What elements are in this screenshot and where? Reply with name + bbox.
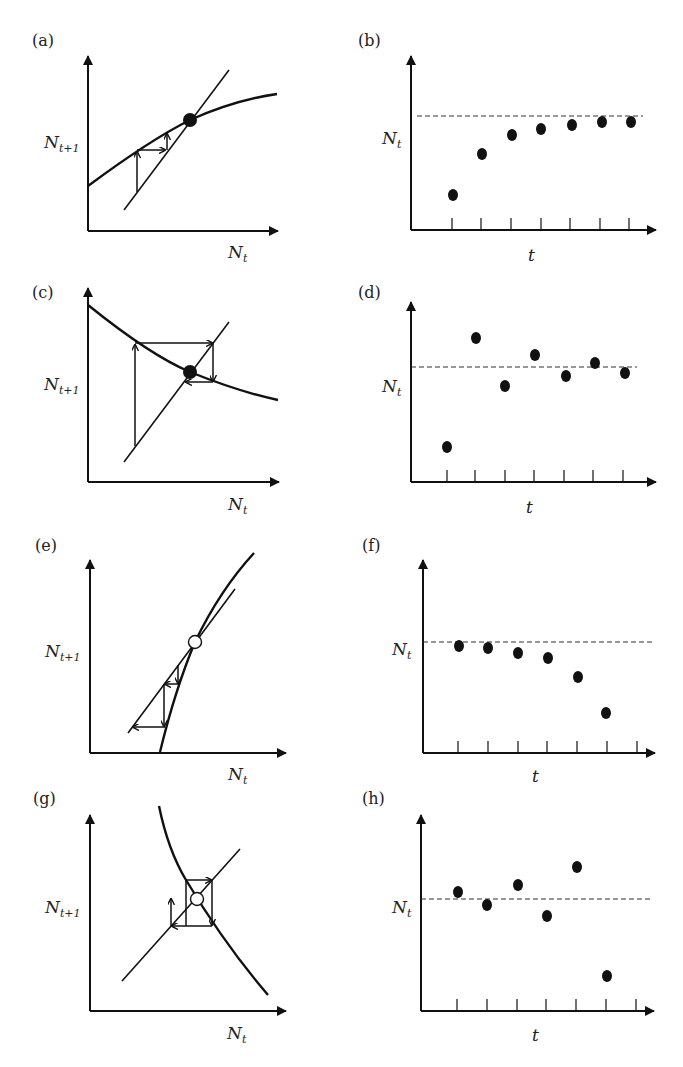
y-axis-label: Nt [391, 897, 412, 920]
x-ticks [458, 741, 637, 753]
data-points [454, 640, 611, 719]
panel-label: (f) [362, 536, 380, 555]
panel-g: (g) Nt+1 Nt [33, 789, 286, 1046]
data-points [448, 116, 636, 201]
x-axis-label: Nt [227, 242, 248, 265]
panel-f: (f) Nt t [362, 536, 655, 786]
panel-label: (g) [33, 789, 56, 808]
panel-h: (h) Nt t [362, 789, 654, 1045]
panel-label: (a) [32, 31, 54, 50]
y-axis-label: Nt [381, 376, 402, 399]
recruitment-curve [159, 806, 268, 995]
y-axis-label: Nt+1 [44, 641, 81, 664]
panel-b: (b) Nt t [358, 31, 656, 265]
panel-label: (d) [358, 283, 381, 302]
x-axis-label: Nt [226, 1023, 247, 1046]
recruitment-curve [160, 553, 254, 752]
x-axis-label: t [532, 766, 539, 786]
x-axis-label: Nt [227, 764, 248, 787]
y-axis-label: Nt [391, 639, 412, 662]
y-axis-label: Nt+1 [43, 374, 80, 397]
panel-label: (h) [362, 789, 385, 808]
x-ticks [457, 999, 636, 1011]
y-axis-label: Nt+1 [43, 132, 80, 155]
x-ticks [447, 470, 623, 482]
x-axis-label: t [528, 245, 535, 265]
stable-equilibrium-point [183, 365, 197, 379]
panel-e: (e) Nt+1 Nt [35, 536, 286, 787]
recruitment-curve [88, 94, 277, 186]
y-axis-label: Nt+1 [44, 897, 81, 920]
panel-label: (b) [358, 31, 381, 50]
data-points [442, 332, 630, 453]
replacement-line [128, 589, 235, 733]
x-axis-label: t [532, 1025, 539, 1045]
stable-equilibrium-point [183, 113, 197, 127]
panel-c: (c) Nt+1 Nt [32, 283, 279, 517]
panel-label: (e) [35, 536, 57, 555]
x-axis-label: Nt [227, 494, 248, 517]
replacement-line [124, 70, 229, 210]
panel-a: (a) Nt+1 Nt [32, 31, 278, 265]
panel-label: (c) [32, 283, 53, 302]
x-ticks [452, 218, 629, 230]
data-points [453, 861, 612, 982]
figure: (a) Nt+1 Nt (b) Nt t (c) [0, 0, 683, 1067]
panel-d: (d) Nt t [358, 283, 656, 517]
unstable-equilibrium-point [191, 893, 204, 906]
y-axis-label: Nt [381, 128, 402, 151]
recruitment-curve [88, 305, 278, 400]
x-axis-label: t [526, 497, 533, 517]
unstable-equilibrium-point [189, 636, 202, 649]
